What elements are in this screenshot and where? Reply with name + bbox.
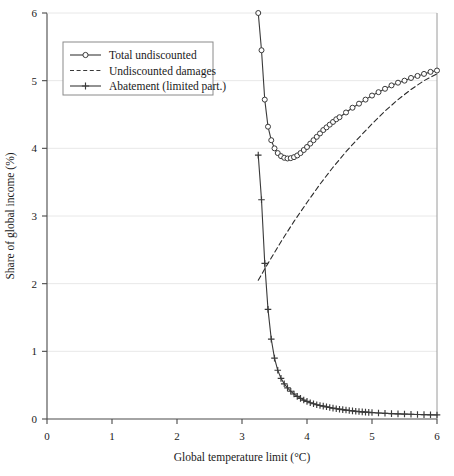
y-tick-label: 2 [32, 278, 38, 290]
data-point-marker [256, 11, 261, 16]
data-point-marker [350, 105, 355, 110]
y-tick-label: 6 [32, 7, 38, 19]
data-point-marker [357, 101, 362, 106]
legend-label: Abatement (limited part.) [109, 80, 226, 93]
y-tick-label: 1 [32, 345, 38, 357]
data-point-marker [363, 97, 368, 102]
data-point-marker [435, 68, 440, 73]
data-point-marker [389, 83, 394, 88]
x-tick-label: 4 [304, 430, 310, 442]
data-point-marker [396, 80, 401, 85]
x-tick-label: 6 [434, 430, 440, 442]
data-point-marker [409, 75, 414, 80]
x-axis-label: Global temperature limit (°C) [174, 451, 311, 464]
x-tick-label: 3 [239, 430, 245, 442]
data-point-marker [376, 90, 381, 95]
data-point-marker [428, 69, 433, 74]
legend-label: Undiscounted damages [109, 65, 217, 78]
y-axis-label: Share of global income (%) [4, 152, 17, 279]
y-tick-label: 3 [32, 210, 38, 222]
data-point-marker [370, 93, 375, 98]
data-point-marker [262, 97, 267, 102]
y-tick-label: 5 [32, 75, 38, 87]
x-tick-label: 2 [174, 430, 180, 442]
chart-legend: Total undiscountedUndiscounted damagesAb… [63, 42, 226, 95]
data-point-marker [266, 124, 271, 129]
data-point-marker [344, 110, 349, 115]
y-tick-label: 4 [32, 142, 38, 154]
chart-canvas: 0123456 0123456 Global temperature limit… [0, 0, 454, 476]
data-point-marker [422, 71, 427, 76]
data-point-marker [259, 48, 264, 53]
data-point-marker [269, 138, 274, 143]
x-tick-label: 5 [369, 430, 375, 442]
data-point-marker [272, 146, 277, 151]
chart-figure: 0123456 0123456 Global temperature limit… [0, 0, 454, 476]
data-point-marker [402, 78, 407, 83]
x-tick-label: 1 [109, 430, 115, 442]
legend-label: Total undiscounted [109, 49, 197, 61]
data-point-marker [383, 86, 388, 91]
x-tick-label: 0 [44, 430, 50, 442]
y-tick-label: 0 [32, 413, 38, 425]
legend-sample-marker [83, 52, 88, 57]
data-point-marker [337, 115, 342, 120]
data-point-marker [415, 73, 420, 78]
